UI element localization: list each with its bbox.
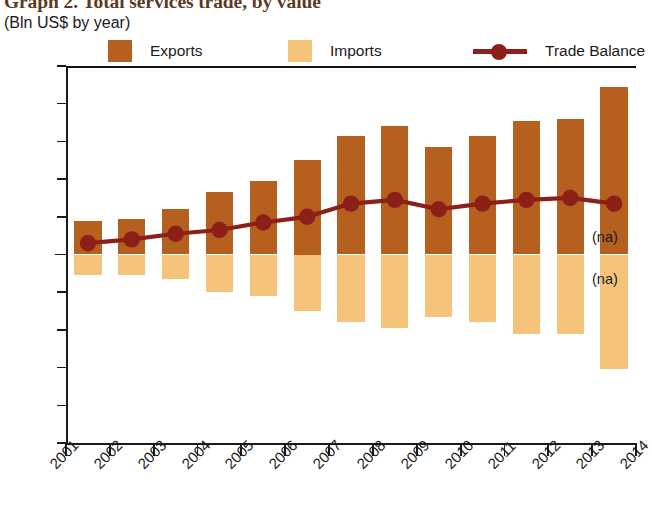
- na-label: (na): [592, 229, 618, 245]
- y-axis-tick: [57, 141, 66, 143]
- trade-balance-marker[interactable]: 2007 Trade Balance: 27: [343, 195, 359, 211]
- trade-balance-marker[interactable]: 2008 Trade Balance: 29: [387, 192, 403, 208]
- trade-balance-marker[interactable]: 2004 Trade Balance: 13: [211, 222, 227, 238]
- trade-balance-marker[interactable]: 2011 Trade Balance: 29: [518, 192, 534, 208]
- legend-label-trade-balance: Trade Balance: [545, 42, 645, 60]
- y-axis-tick: [57, 103, 66, 105]
- chart-legend: Exports Imports Trade Balance: [108, 38, 636, 64]
- trade-balance-line-sample: [473, 40, 527, 62]
- trade-balance-marker[interactable]: 2010 Trade Balance: 27: [474, 195, 490, 211]
- trade-balance-marker[interactable]: 2001 Trade Balance: 6: [80, 235, 96, 251]
- trade-balance-marker[interactable]: 2005 Trade Balance: 17: [255, 214, 271, 230]
- y-axis-tick: [57, 65, 66, 67]
- trade-balance-marker[interactable]: 2013 Trade Balance: 27: [606, 195, 622, 211]
- trade-balance-marker[interactable]: 2009 Trade Balance: 24: [430, 201, 446, 217]
- y-axis-tick: [57, 291, 66, 293]
- y-axis-tick: [57, 178, 66, 180]
- legend-item-imports[interactable]: Imports: [288, 38, 382, 64]
- trade-balance-marker[interactable]: 2012 Trade Balance: 30: [562, 190, 578, 206]
- legend-label-imports: Imports: [330, 42, 382, 60]
- plot-area: 100806040200−20−40−60−80−100 2001 Trade …: [66, 66, 636, 443]
- na-label: (na): [592, 271, 618, 287]
- exports-color-swatch: [108, 40, 132, 62]
- trade-balance-marker[interactable]: 2003 Trade Balance: 11: [167, 226, 183, 242]
- y-axis-tick: [55, 254, 66, 256]
- y-axis-tick: [57, 216, 66, 218]
- trade-balance-series: 2001 Trade Balance: 62002 Trade Balance:…: [66, 66, 636, 443]
- legend-item-exports[interactable]: Exports: [108, 38, 203, 64]
- imports-color-swatch: [288, 40, 312, 62]
- chart-subtitle: (Bln US$ by year): [4, 14, 130, 32]
- legend-item-trade-balance[interactable]: Trade Balance: [473, 38, 645, 64]
- y-axis-tick: [57, 329, 66, 331]
- legend-label-exports: Exports: [150, 42, 203, 60]
- chart-title: Graph 2. Total services trade, by value: [4, 0, 321, 13]
- y-axis-tick: [57, 367, 66, 369]
- trade-balance-marker[interactable]: 2002 Trade Balance: 8: [124, 231, 140, 247]
- trade-balance-marker[interactable]: 2006 Trade Balance: 20: [299, 209, 315, 225]
- y-axis-tick: [57, 405, 66, 407]
